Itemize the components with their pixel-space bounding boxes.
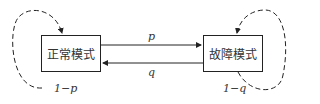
edge-label-p: p [148,30,155,43]
node-fault-mode: 故障模式 [203,35,263,72]
loop-label-1-p: 1−p [54,82,77,95]
loop-label-1-q: 1−q [223,82,246,95]
node-normal-mode: 正常模式 [41,35,101,72]
edge-label-q: q [148,66,155,79]
